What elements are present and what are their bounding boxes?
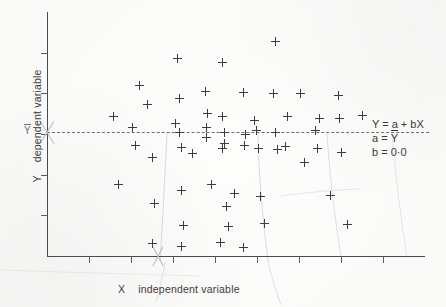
scatter-point (150, 199, 159, 208)
scatter-point (230, 189, 239, 198)
y-axis-label-text: dependent variable (31, 69, 43, 162)
scatter-point (326, 191, 335, 200)
scatter-point (220, 128, 229, 137)
scatter-point (250, 116, 259, 125)
equation-intercept-lhs: a = (372, 132, 391, 144)
scatter-point (202, 123, 211, 132)
scatter-point (283, 112, 292, 121)
scatter-point (128, 123, 137, 132)
scatter-point (109, 112, 118, 121)
scatter-point (143, 100, 152, 109)
scatter-point (335, 114, 344, 123)
scatter-point (218, 58, 227, 67)
scatter-point (177, 186, 186, 195)
scatter-point (239, 88, 248, 97)
equation-model-suffix: X (416, 118, 423, 130)
scatter-point (218, 144, 227, 153)
scatter-point (254, 144, 263, 153)
scatter-point (313, 144, 322, 153)
scatter-point (177, 143, 186, 152)
scatter-point (271, 128, 280, 137)
equation-model-prefix: Y = a + b (372, 118, 416, 130)
scatter-point (315, 114, 324, 123)
regression-equation-block: Y = a + bX a = Y b = 0·0 (372, 117, 424, 159)
equation-intercept-rhs: Y (391, 131, 398, 145)
scatter-point (269, 89, 278, 98)
scatter-point (131, 141, 140, 150)
scatter-point (222, 202, 231, 211)
scatter-point (207, 180, 216, 189)
equation-line-intercept: a = Y (372, 131, 424, 145)
scatter-point (239, 243, 248, 252)
scatter-point (148, 153, 157, 162)
scatter-point (173, 54, 182, 63)
scatter-point (201, 87, 210, 96)
scatter-point (256, 192, 265, 201)
scatter-point (337, 148, 346, 157)
scatter-point (334, 91, 343, 100)
scatter-point (343, 220, 352, 229)
scatter-point (202, 133, 211, 142)
scatter-point (358, 111, 367, 120)
y-mean-symbol: Y (24, 125, 31, 136)
scatter-point (114, 180, 123, 189)
equation-line-slope: b = 0·0 (372, 145, 424, 159)
scatter-point (175, 128, 184, 137)
scatter-point (241, 130, 250, 139)
x-axis-label-symbol: X (118, 283, 125, 295)
scatter-point (188, 149, 197, 158)
scatter-point (218, 112, 227, 121)
scatter-point (311, 126, 320, 135)
scatter-point (179, 221, 188, 230)
scatter-point (281, 142, 290, 151)
y-mean-tick-label: Y (24, 125, 31, 136)
scatter-point (203, 109, 212, 118)
scatter-point (177, 242, 186, 251)
scatter-point (216, 238, 225, 247)
scatter-point (300, 158, 309, 167)
scatter-point (252, 126, 261, 135)
scatter-point (260, 219, 269, 228)
x-axis-label: Xindependent variable (118, 283, 240, 295)
y-axis-label: Ydependent variable (31, 41, 43, 211)
equation-line-model: Y = a + bX (372, 117, 424, 131)
scatter-point (175, 94, 184, 103)
scatter-point (171, 119, 180, 128)
scatter-point (240, 141, 249, 150)
scatter-point (271, 37, 280, 46)
scatter-point (296, 89, 305, 98)
scatter-plot-figure: Ydependent variable Xindependent variabl… (0, 0, 446, 307)
y-axis-label-symbol: Y (31, 175, 43, 182)
x-axis-label-text: independent variable (138, 283, 240, 295)
scatter-point (224, 222, 233, 231)
scatter-point (135, 81, 144, 90)
